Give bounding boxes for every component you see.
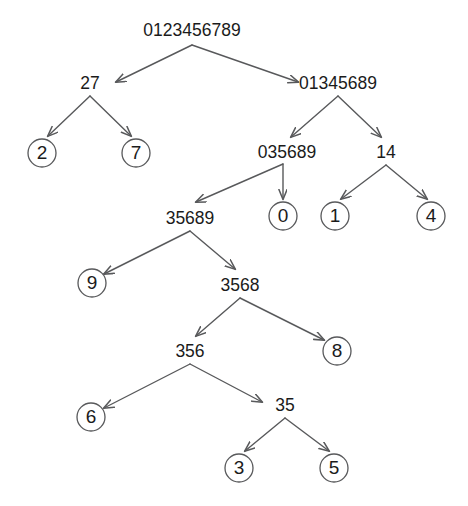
tree-node-14[interactable]: 14 xyxy=(376,142,396,162)
node-label: 2 xyxy=(37,142,48,163)
node-label: 5 xyxy=(329,457,340,478)
tree-node-7[interactable]: 7 xyxy=(122,139,150,167)
node-label: 4 xyxy=(426,205,437,226)
tree-edge-root-to-01345689 xyxy=(192,45,298,82)
tree-node-035689[interactable]: 035689 xyxy=(258,142,316,162)
edge-layer xyxy=(48,45,427,451)
tree-node-5[interactable]: 5 xyxy=(320,454,348,482)
node-label: 35689 xyxy=(166,208,215,228)
tree-edge-35689-to-9 xyxy=(104,231,190,274)
tree-edge-01345689-to-035689 xyxy=(291,96,338,137)
node-label: 356 xyxy=(175,341,204,361)
tree-node-35689[interactable]: 35689 xyxy=(166,208,215,228)
tree-edge-14-to-1 xyxy=(341,165,386,199)
node-label: 01345689 xyxy=(299,73,377,93)
tree-node-27[interactable]: 27 xyxy=(80,73,99,93)
tree-node-2[interactable]: 2 xyxy=(28,139,56,167)
node-label: 035689 xyxy=(258,142,316,162)
tree-edge-35689-to-3568 xyxy=(190,231,235,269)
node-label: 9 xyxy=(87,272,98,293)
node-label: 0 xyxy=(278,205,289,226)
tree-node-0123456789[interactable]: 0123456789 xyxy=(143,20,240,40)
tree-edge-3568-to-8 xyxy=(240,298,324,340)
tree-node-3568[interactable]: 3568 xyxy=(221,275,260,295)
tree-edge-35-to-3 xyxy=(245,418,285,451)
node-label: 27 xyxy=(80,73,99,93)
tree-edge-27-to-7 xyxy=(90,96,131,136)
node-label: 14 xyxy=(376,142,396,162)
tree-node-4[interactable]: 4 xyxy=(417,202,445,230)
node-label: 7 xyxy=(131,142,142,163)
tree-edge-35-to-5 xyxy=(285,418,329,451)
node-layer: 0123456789270134568927035689143568901493… xyxy=(28,20,445,482)
tree-edge-356-to-6 xyxy=(104,364,190,408)
tree-node-3[interactable]: 3 xyxy=(225,454,253,482)
tree-edge-14-to-4 xyxy=(386,165,427,199)
tree-diagram: 0123456789270134568927035689143568901493… xyxy=(0,0,468,506)
node-label: 6 xyxy=(86,406,97,427)
node-label: 0123456789 xyxy=(143,20,240,40)
tree-node-35[interactable]: 35 xyxy=(275,395,294,415)
node-label: 1 xyxy=(330,205,341,226)
node-label: 3 xyxy=(234,457,245,478)
node-label: 8 xyxy=(332,340,343,361)
tree-node-356[interactable]: 356 xyxy=(175,341,204,361)
tree-edge-root-to-27 xyxy=(116,45,192,82)
tree-edge-356-to-35 xyxy=(190,364,262,402)
node-label: 35 xyxy=(275,395,294,415)
tree-edge-27-to-2 xyxy=(48,96,90,136)
node-label: 3568 xyxy=(221,275,260,295)
tree-node-8[interactable]: 8 xyxy=(323,337,351,365)
tree-edge-3568-to-356 xyxy=(196,298,240,336)
tree-edge-035689-to-35689 xyxy=(196,164,283,202)
tree-node-01345689[interactable]: 01345689 xyxy=(299,73,377,93)
tree-node-6[interactable]: 6 xyxy=(77,403,105,431)
tree-node-1[interactable]: 1 xyxy=(321,202,349,230)
tree-node-0[interactable]: 0 xyxy=(269,202,297,230)
tree-edge-01345689-to-14 xyxy=(338,96,381,137)
tree-canvas: 0123456789270134568927035689143568901493… xyxy=(0,0,468,506)
tree-node-9[interactable]: 9 xyxy=(78,269,106,297)
